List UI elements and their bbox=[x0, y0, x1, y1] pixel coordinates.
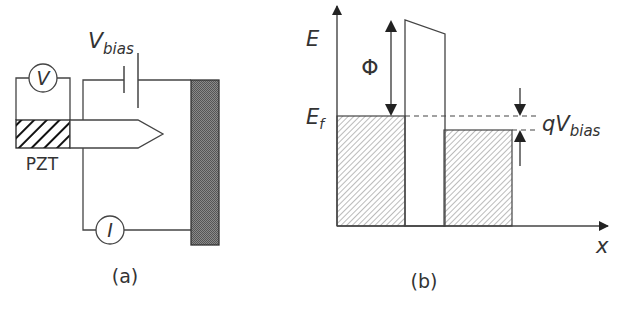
voltmeter-icon: V bbox=[29, 64, 57, 92]
figure-a-circuit: V PZT Vbias I (a) bbox=[16, 28, 219, 287]
tip-filled-states bbox=[337, 116, 405, 226]
figure-b-energy-diagram: Φ qVbias E x Ef (b) bbox=[306, 6, 609, 292]
caption-a: (a) bbox=[112, 265, 138, 287]
sample-filled-states bbox=[444, 130, 512, 226]
pzt-label: PZT bbox=[26, 154, 59, 174]
tip bbox=[70, 120, 163, 148]
battery-icon bbox=[124, 53, 138, 108]
bias-energy-label: qVbias bbox=[542, 112, 601, 140]
voltmeter-label: V bbox=[37, 67, 52, 89]
sample-block bbox=[191, 80, 219, 245]
bias-energy-arrows bbox=[514, 88, 526, 166]
fermi-level-label: Ef bbox=[306, 105, 326, 132]
caption-b: (b) bbox=[411, 270, 438, 292]
bias-voltage-label: Vbias bbox=[88, 28, 134, 58]
tunnel-barrier bbox=[405, 20, 445, 226]
bias-circuit-wires bbox=[83, 80, 191, 230]
pzt-block bbox=[16, 120, 70, 148]
stm-diagram: V PZT Vbias I (a) bbox=[0, 0, 624, 315]
energy-axis-label: E bbox=[306, 27, 320, 51]
work-function-arrow bbox=[385, 20, 397, 116]
position-axis-label: x bbox=[595, 234, 609, 258]
ammeter-label: I bbox=[107, 219, 113, 241]
ammeter-icon: I bbox=[96, 216, 124, 244]
work-function-label: Φ bbox=[361, 55, 378, 80]
